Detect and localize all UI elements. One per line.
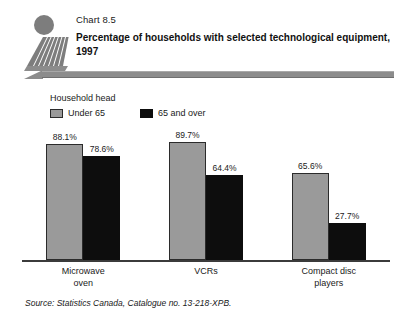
bar-value-cd-65-and-over: 27.7% xyxy=(320,211,375,221)
bar-value-vcrs-under-65: 89.7% xyxy=(160,130,215,140)
bar-column-under-65: 65.6% xyxy=(292,140,329,260)
legend-label-under-65: Under 65 xyxy=(68,108,105,118)
bar-pair: 88.1% 78.6% xyxy=(22,140,145,260)
legend-item-under-65: Under 65 xyxy=(50,108,140,118)
bar-groups: 88.1% 78.6% 89.7% 64.4% xyxy=(22,140,390,260)
x-axis-baseline xyxy=(22,260,390,262)
bar-vcrs-under-65 xyxy=(169,142,206,260)
bar-microwave-65-and-over xyxy=(83,156,120,260)
x-axis-category-labels: Microwaveoven VCRs Compact discplayers xyxy=(22,266,390,289)
header-divider xyxy=(24,70,394,80)
bar-pair: 65.6% 27.7% xyxy=(267,140,390,260)
bar-column-65-and-over: 64.4% xyxy=(206,140,243,260)
bar-pair: 89.7% 64.4% xyxy=(145,140,268,260)
bar-column-65-and-over: 27.7% xyxy=(329,140,366,260)
bar-value-vcrs-65-and-over: 64.4% xyxy=(197,163,252,173)
bar-cd-65-and-over xyxy=(329,223,366,260)
chart-number: Chart 8.5 xyxy=(76,14,116,25)
chart-header: Chart 8.5 Percentage of households with … xyxy=(0,0,401,86)
legend-label-65-and-over: 65 and over xyxy=(158,108,206,118)
legend-row: Under 65 65 and over xyxy=(50,108,206,118)
bar-microwave-under-65 xyxy=(46,144,83,260)
page-title: Percentage of households with selected t… xyxy=(76,31,394,58)
legend-title: Household head xyxy=(50,93,206,103)
legend-item-65-and-over: 65 and over xyxy=(140,108,206,118)
divider-bar xyxy=(42,71,394,78)
bar-value-microwave-65-and-over: 78.6% xyxy=(74,144,129,154)
statistics-canada-logo xyxy=(21,14,69,72)
bar-group-vcrs: 89.7% 64.4% xyxy=(145,140,268,260)
source-note: Source: Statistics Canada, Catalogue no.… xyxy=(25,298,231,308)
chart-legend: Household head Under 65 65 and over xyxy=(50,93,206,118)
legend-swatch-icon-under-65 xyxy=(50,109,63,118)
bar-group-compact-disc-players: 65.6% 27.7% xyxy=(267,140,390,260)
bar-vcrs-65-and-over xyxy=(206,175,243,260)
category-label-compact-disc-players: Compact discplayers xyxy=(267,266,390,289)
category-label-vcrs: VCRs xyxy=(145,266,268,289)
bar-column-under-65: 89.7% xyxy=(169,140,206,260)
bar-column-65-and-over: 78.6% xyxy=(83,140,120,260)
bar-group-microwave-oven: 88.1% 78.6% xyxy=(22,140,145,260)
legend-swatch-icon-65-and-over xyxy=(140,109,153,118)
bar-column-under-65: 88.1% xyxy=(46,140,83,260)
divider-wedge xyxy=(24,70,43,79)
bar-chart-plot: 88.1% 78.6% 89.7% 64.4% xyxy=(0,140,401,265)
category-label-microwave-oven: Microwaveoven xyxy=(22,266,145,289)
